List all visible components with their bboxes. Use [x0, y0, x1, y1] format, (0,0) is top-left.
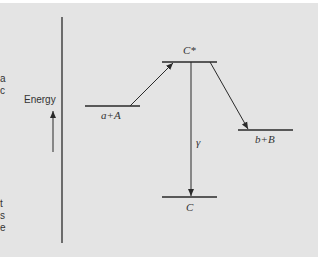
level-label-aA: a+A — [101, 109, 121, 121]
transition-aA-to-Cstar — [130, 63, 173, 106]
level-label-bB: b+B — [255, 133, 275, 145]
level-label-Cstar: C* — [183, 44, 196, 56]
energy-level-diagram — [0, 0, 325, 267]
gamma-label: γ — [196, 136, 200, 148]
level-label-C: C — [186, 201, 193, 213]
energy-label: Energy — [24, 94, 56, 105]
transition-Cstar-to-bB — [210, 62, 248, 129]
